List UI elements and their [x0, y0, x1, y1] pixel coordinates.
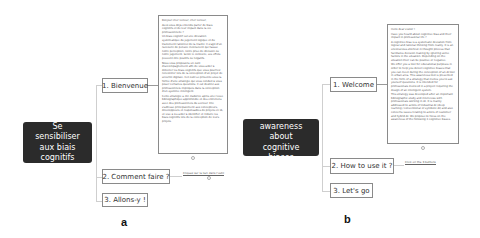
collapse-toggle[interactable]: [191, 156, 195, 160]
panel-caption-a: a: [121, 216, 127, 228]
branch-connector: [322, 84, 330, 85]
mindmap-panel-b: To raise awareness about cognitive biase…: [240, 0, 480, 238]
root-node-text: Se sensibiliser aux biais cognitifs: [23, 122, 92, 164]
collapse-toggle[interactable]: [207, 176, 211, 180]
root-node-text: To raise awareness about cognitive biase…: [243, 111, 319, 164]
root-node[interactable]: Se sensibiliser aux biais cognitifs: [23, 122, 92, 163]
topic-how-to[interactable]: 2. Comment faire ?: [102, 169, 170, 184]
note-connector: [377, 84, 387, 85]
root-node[interactable]: To raise awareness about cognitive biase…: [243, 119, 319, 156]
hint-label[interactable]: Click on the 3 buttons: [405, 160, 436, 165]
collapse-toggle[interactable]: [421, 146, 425, 150]
topic-lets-go[interactable]: 3. Allons-y !: [102, 193, 148, 207]
branch-connector: [322, 84, 323, 192]
label-connector: [394, 165, 404, 166]
label-connector: [170, 176, 182, 177]
note-box[interactable]: Bonjour cher lecteur, cher lecteur, Avez…: [158, 15, 228, 154]
branch-connector: [96, 85, 97, 202]
panel-caption-b: b: [344, 213, 351, 225]
hint-label[interactable]: Cliquez sur le lien dans l'outil: [183, 171, 224, 176]
topic-welcome[interactable]: 1. Bienvenue: [102, 78, 148, 93]
mindmap-panel-a: Se sensibiliser aux biais cognitifs 1. B…: [0, 0, 240, 238]
note-connector: [148, 85, 158, 86]
note-box[interactable]: Hello dear visitor ! Have you heard abou…: [387, 24, 459, 144]
topic-how-to[interactable]: 2. How to use it ?: [330, 158, 394, 174]
branch-connector: [322, 166, 330, 167]
topic-lets-go[interactable]: 3. Let's go: [330, 183, 373, 198]
topic-welcome[interactable]: 1. Welcome: [330, 77, 377, 92]
branch-connector: [322, 191, 330, 192]
